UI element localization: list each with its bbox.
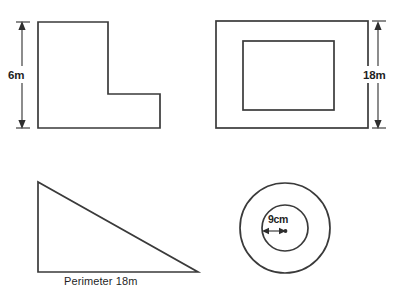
triangle-perimeter-label: Perimeter 18m <box>64 275 137 287</box>
figure-l-shape: 6m <box>6 21 160 129</box>
inner-rectangle-outline <box>243 41 334 110</box>
figure-nested-rectangles: 18m <box>216 21 394 129</box>
rectangle-height-label: 18m <box>363 69 385 81</box>
circle-radius-label: 9cm <box>268 213 288 225</box>
outer-circle-outline <box>240 183 330 273</box>
outer-rectangle-outline <box>216 21 368 128</box>
circle-center-dot <box>284 229 288 233</box>
l-shape-height-label: 6m <box>8 69 24 81</box>
figure-right-triangle: Perimeter 18m <box>38 182 198 287</box>
figure-concentric-circles: 9cm <box>240 183 330 273</box>
right-triangle-outline <box>38 182 198 272</box>
geometry-figures-canvas: 6m 18m Perimeter 18m 9cm <box>0 0 410 296</box>
rectangle-arrow-top <box>374 21 381 30</box>
l-shape-outline <box>38 22 160 128</box>
rectangle-height-dimension: 18m <box>362 21 394 129</box>
l-shape-height-dimension: 6m <box>6 21 32 129</box>
